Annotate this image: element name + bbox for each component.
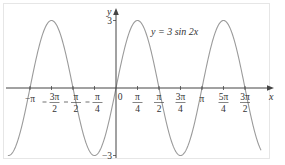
- axis-labels: y x y = 3 sin 2x −π3π2π2π40π4π23π4π5π43π…: [25, 6, 274, 161]
- x-tick-label: 3π4: [175, 92, 185, 114]
- svg-text:π: π: [200, 94, 205, 104]
- svg-text:π: π: [74, 92, 79, 102]
- svg-text:2: 2: [243, 104, 248, 114]
- sine-chart: y x y = 3 sin 2x −π3π2π2π40π4π23π4π5π43π…: [0, 0, 285, 165]
- svg-text:3π: 3π: [240, 92, 250, 102]
- svg-text:3π: 3π: [176, 92, 186, 102]
- svg-text:−π: −π: [25, 94, 35, 104]
- x-tick-label: 5π4: [218, 92, 228, 114]
- svg-text:π: π: [135, 92, 140, 102]
- svg-text:π: π: [95, 92, 100, 102]
- x-tick-label: π4: [85, 92, 102, 114]
- svg-text:2: 2: [157, 104, 162, 114]
- svg-text:4: 4: [221, 104, 226, 114]
- x-axis-label: x: [268, 91, 274, 102]
- x-tick-label: 0: [118, 92, 123, 102]
- svg-text:4: 4: [135, 104, 140, 114]
- svg-text:5π: 5π: [219, 92, 229, 102]
- y-axis-arrow-icon: [113, 8, 119, 15]
- svg-text:0: 0: [118, 92, 123, 102]
- svg-text:4: 4: [178, 104, 183, 114]
- y-tick-label: 3: [107, 16, 112, 26]
- svg-text:2: 2: [52, 104, 57, 114]
- axes: [6, 8, 274, 158]
- svg-text:2: 2: [74, 104, 79, 114]
- x-tick-label: π2: [64, 92, 81, 114]
- x-tick-label: −π: [25, 94, 35, 104]
- svg-text:4: 4: [95, 104, 100, 114]
- equation-label: y = 3 sin 2x: [150, 26, 199, 37]
- y-tick-label: −3: [102, 151, 112, 161]
- svg-text:π: π: [157, 92, 162, 102]
- x-axis-arrow-icon: [267, 85, 274, 91]
- svg-text:3π: 3π: [50, 92, 60, 102]
- x-tick-label: 3π2: [43, 92, 60, 114]
- x-tick-label: π: [200, 94, 205, 104]
- x-tick-label: π4: [133, 92, 143, 114]
